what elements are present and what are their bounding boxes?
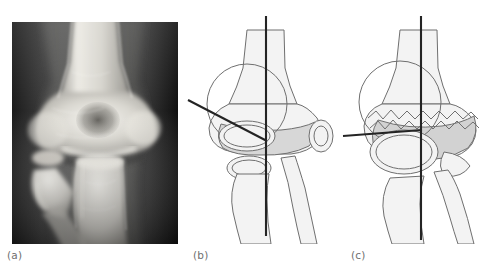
panel-b-caption: (b) (193, 249, 208, 261)
panel-c-caption: (c) (351, 249, 366, 261)
figure-container: .bone { fill:#f3f3f3; stroke:#6f6f6f; st… (0, 0, 489, 277)
panel-c-diagram: .bone2 { fill:#f3f3f3; stroke:#6f6f6f; s… (338, 12, 488, 244)
elbow-line-drawing-irregular: .bone2 { fill:#f3f3f3; stroke:#6f6f6f; s… (338, 12, 488, 244)
panel-a-caption: (a) (7, 249, 22, 261)
radiograph-image (12, 22, 178, 244)
radius-shaft (281, 156, 317, 244)
film-grain (12, 22, 178, 244)
panel-b-diagram: .bone { fill:#f3f3f3; stroke:#6f6f6f; st… (185, 12, 335, 244)
elbow-line-drawing-normal: .bone { fill:#f3f3f3; stroke:#6f6f6f; st… (185, 12, 335, 244)
olecranon-oval (370, 130, 438, 174)
panel-a-radiograph (12, 22, 178, 244)
ulna-shaft (383, 176, 424, 244)
radius-shaft (434, 170, 474, 244)
medial-epicondyle-oval (309, 120, 333, 152)
